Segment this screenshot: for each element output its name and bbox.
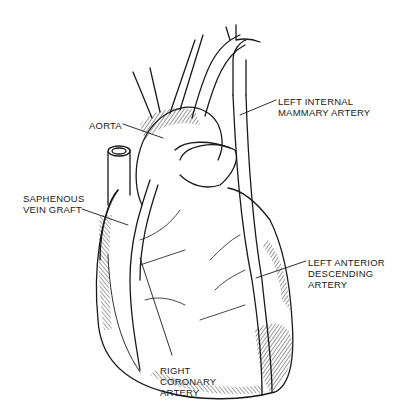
label-saphenous-vein-graft: SAPHENOUS VEIN GRAFT [23, 193, 84, 215]
label-left-anterior-descending-artery: LEFT ANTERIOR DESCENDING ARTERY [308, 257, 385, 290]
label-left-internal-mammary-artery: LEFT INTERNAL MAMMARY ARTERY [278, 96, 370, 118]
label-aorta: AORTA [89, 120, 122, 131]
label-right-coronary-artery: RIGHT CORONARY ARTERY [160, 365, 216, 398]
leader-lines [82, 100, 306, 355]
vena-cava [108, 150, 130, 205]
heart-bypass-diagram: AORTA LEFT INTERNAL MAMMARY ARTERY SAPHE… [0, 0, 405, 418]
saphenous-graft [130, 180, 158, 370]
